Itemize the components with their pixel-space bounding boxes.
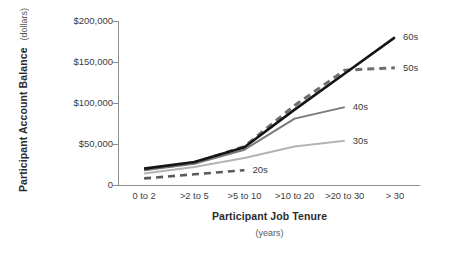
series-label-30s: 30s [353, 136, 368, 146]
x-tick-label: 0 to 2 [132, 192, 155, 201]
series-line-40s [144, 107, 345, 170]
x-tick-label: >10 to 20 [275, 192, 314, 201]
series-line-30s [144, 141, 345, 174]
x-tick-label: >2 to 5 [180, 192, 209, 201]
x-axis-title-main: Participant Job Tenure [119, 210, 420, 222]
series-label-60s: 60s [403, 32, 418, 42]
chart-container: Participant Account Balance (dollars) 0$… [0, 0, 465, 254]
x-axis-title-sub: (years) [119, 228, 420, 238]
x-axis-tick-labels: 0 to 2>2 to 5>5 to 10>10 to 20>20 to 30>… [119, 190, 420, 208]
series-line-50s [144, 68, 395, 170]
x-tick-label: > 30 [386, 192, 404, 201]
x-tick-label: >20 to 30 [325, 192, 364, 201]
series-label-20s: 20s [252, 165, 267, 175]
x-tick-label: >5 to 10 [227, 192, 261, 201]
series-label-50s: 50s [403, 63, 418, 73]
series-label-40s: 40s [353, 102, 368, 112]
